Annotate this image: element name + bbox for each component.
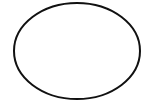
- ellipse-shape: [14, 3, 140, 99]
- diagram-canvas: [0, 0, 153, 107]
